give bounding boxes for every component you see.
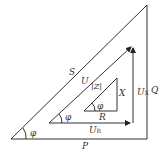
- power-triangle: [11, 5, 147, 139]
- label-R: R: [99, 113, 106, 122]
- dot-U: ·: [82, 73, 84, 78]
- label-X: X: [119, 89, 125, 98]
- label-S: S: [69, 68, 75, 77]
- voltage-hyp-arrow: [49, 47, 131, 123]
- triangles-diagram: S Q P φ U UX UR φ |Z| X R φ · · ·: [0, 0, 165, 157]
- angle-arc-inner: [92, 103, 95, 111]
- label-U: U: [81, 77, 89, 86]
- label-UR: UR: [89, 126, 101, 135]
- dot-UR: ·: [90, 122, 92, 127]
- angle-arc-outer: [23, 128, 26, 139]
- dot-UX: ·: [138, 84, 140, 89]
- label-phi-inner: φ: [97, 102, 103, 111]
- label-UX: UX: [137, 88, 149, 97]
- label-phi-middle: φ: [65, 113, 71, 122]
- label-Z: |Z|: [91, 83, 102, 91]
- angle-arc-middle: [59, 114, 62, 123]
- label-Q: Q: [151, 86, 158, 95]
- label-phi-outer: φ: [30, 129, 36, 138]
- label-P: P: [82, 142, 88, 151]
